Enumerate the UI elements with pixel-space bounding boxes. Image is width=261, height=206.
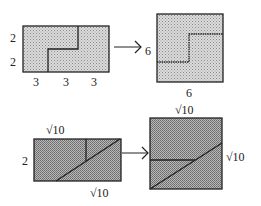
top-left-rectangle [23, 26, 109, 72]
label-square-side-bottom: 6 [186, 86, 192, 100]
bottom-left-rectangle [34, 139, 121, 181]
label-rect-top: √10 [46, 123, 65, 137]
label-rect-bottom: √10 [90, 186, 109, 200]
label-height-upper: 2 [10, 31, 16, 45]
label-height-lower: 2 [10, 55, 16, 69]
right-arrow-icon [122, 147, 148, 159]
label-width-3: 3 [91, 75, 97, 89]
label-square-top: √10 [175, 103, 194, 117]
label-rect-left: 2 [22, 154, 28, 168]
bottom-right-square [150, 118, 222, 189]
label-width-2: 3 [63, 75, 69, 89]
label-square-right: √10 [226, 150, 245, 164]
dissection-diagram: 2 2 3 3 3 6 6 √10 2 √10 √10 √10 [0, 0, 261, 206]
right-arrow-icon [114, 41, 141, 53]
label-width-1: 3 [33, 75, 39, 89]
top-right-square [157, 14, 223, 82]
label-square-side-left: 6 [145, 44, 151, 58]
